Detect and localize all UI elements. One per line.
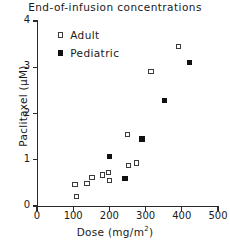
y-tick-label-0: 0 xyxy=(16,199,30,210)
data-point-adult xyxy=(107,178,112,183)
data-point-adult xyxy=(126,163,131,168)
y-tick-label-4: 4 xyxy=(16,14,30,25)
data-point-adult xyxy=(106,170,111,175)
y-axis-label: Paclitaxel (μM) xyxy=(17,41,29,171)
y-tick-4 xyxy=(33,20,38,21)
legend-label-pediatric: Pediatric xyxy=(70,47,119,59)
data-point-adult xyxy=(125,132,130,137)
chart-legend: Adult Pediatric xyxy=(58,26,119,62)
x-axis-line xyxy=(37,206,219,207)
legend-item-pediatric: Pediatric xyxy=(58,44,119,62)
legend-label-adult: Adult xyxy=(70,29,99,41)
filled-square-icon xyxy=(58,50,63,55)
x-tick-label-100: 100 xyxy=(58,210,88,221)
data-point-adult xyxy=(176,44,181,49)
data-point-pediatric xyxy=(139,136,144,141)
x-tick-label-400: 400 xyxy=(167,210,197,221)
data-point-pediatric xyxy=(122,176,127,181)
data-point-adult xyxy=(72,182,77,187)
data-point-adult xyxy=(84,181,89,186)
x-tick-label-0: 0 xyxy=(22,210,52,221)
data-point-pediatric xyxy=(187,60,192,65)
data-point-adult xyxy=(148,69,153,74)
data-point-pediatric xyxy=(107,154,112,159)
y-tick-3 xyxy=(33,67,38,68)
x-axis-label-tail: ) xyxy=(149,226,153,238)
y-tick-2 xyxy=(33,113,38,114)
legend-item-adult: Adult xyxy=(58,26,119,44)
data-point-adult xyxy=(100,172,105,177)
open-square-icon xyxy=(58,32,63,37)
x-tick-label-200: 200 xyxy=(94,210,124,221)
x-axis-label: Dose (mg/m2) xyxy=(0,225,230,238)
chart-figure: End-of-infusion concentrations 01234 010… xyxy=(0,0,230,243)
x-axis-label-base: Dose (mg/m xyxy=(77,226,145,238)
data-point-pediatric xyxy=(162,98,167,103)
y-tick-1 xyxy=(33,159,38,160)
data-point-adult xyxy=(134,160,139,165)
x-tick-label-500: 500 xyxy=(203,210,230,221)
x-tick-label-300: 300 xyxy=(131,210,161,221)
data-point-adult xyxy=(89,175,94,180)
chart-title: End-of-infusion concentrations xyxy=(0,1,230,13)
data-point-adult xyxy=(74,194,79,199)
